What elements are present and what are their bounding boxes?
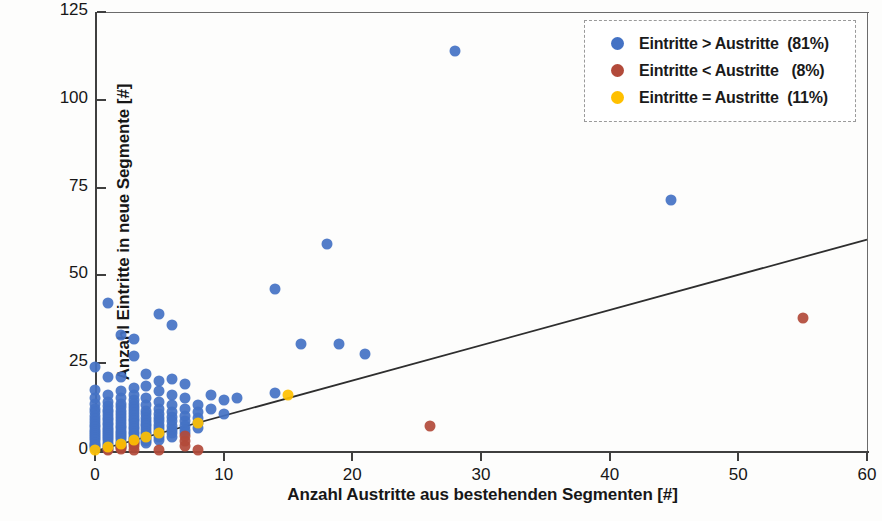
data-point <box>295 338 306 349</box>
legend-item-more_in[interactable]: Eintritte > Austritte (81%) <box>595 30 845 57</box>
data-point <box>192 417 203 428</box>
data-point <box>666 194 677 205</box>
data-point <box>141 381 152 392</box>
data-point <box>205 403 216 414</box>
data-point <box>167 319 178 330</box>
legend-item-label: Eintritte < Austritte (8%) <box>639 62 824 80</box>
trend-line-path <box>95 240 867 451</box>
y-tick-label-125: 125 <box>60 0 88 20</box>
x-tick-label-10: 10 <box>214 465 233 485</box>
data-point <box>167 431 178 442</box>
y-tick-label-25: 25 <box>69 351 88 371</box>
data-point <box>154 375 165 386</box>
y-tick-label-100: 100 <box>60 88 88 108</box>
x-axis-title: Anzahl Austritte aus bestehenden Segment… <box>95 485 870 505</box>
data-point <box>321 238 332 249</box>
x-tick-40: 40 <box>609 451 611 461</box>
chart-legend: Eintritte > Austritte (81%)Eintritte < A… <box>584 20 856 122</box>
data-point <box>450 45 461 56</box>
legend-swatch-icon <box>611 37 624 50</box>
data-point <box>154 444 165 455</box>
legend-item-more_out[interactable]: Eintritte < Austritte (8%) <box>595 57 845 84</box>
data-point <box>154 309 165 320</box>
data-point <box>167 389 178 400</box>
x-tick-label-40: 40 <box>600 465 619 485</box>
data-point <box>115 438 126 449</box>
data-point <box>270 284 281 295</box>
x-tick-60: 60 <box>866 451 868 461</box>
data-point <box>797 312 808 323</box>
data-point <box>205 389 216 400</box>
legend-item-equal[interactable]: Eintritte = Austritte (11%) <box>595 84 845 111</box>
data-point <box>141 368 152 379</box>
data-point <box>180 379 191 390</box>
y-tick-75: 75 <box>97 187 106 189</box>
data-point <box>141 431 152 442</box>
legend-swatch-icon <box>611 64 624 77</box>
y-tick-100: 100 <box>97 99 106 101</box>
x-axis-line <box>95 451 869 453</box>
x-tick-label-30: 30 <box>472 465 491 485</box>
data-point <box>128 333 139 344</box>
x-tick-label-0: 0 <box>90 465 99 485</box>
data-point <box>115 372 126 383</box>
data-point <box>102 298 113 309</box>
x-tick-20: 20 <box>351 451 353 461</box>
data-point <box>218 409 229 420</box>
data-point <box>154 386 165 397</box>
y-tick-125: 125 <box>97 11 106 13</box>
data-point <box>102 441 113 452</box>
data-point <box>180 431 191 442</box>
data-point <box>192 444 203 455</box>
y-tick-label-50: 50 <box>69 263 88 283</box>
legend-swatch-icon <box>611 91 624 104</box>
data-point <box>115 330 126 341</box>
data-point <box>167 374 178 385</box>
data-point <box>283 389 294 400</box>
data-point <box>90 444 101 455</box>
x-tick-30: 30 <box>480 451 482 461</box>
data-point <box>231 393 242 404</box>
x-tick-label-20: 20 <box>343 465 362 485</box>
x-tick-10: 10 <box>223 451 225 461</box>
data-point <box>270 388 281 399</box>
scatter-chart: Anzahl Eintritte in neue Segmente [#] An… <box>0 0 882 521</box>
data-point <box>334 338 345 349</box>
legend-item-label: Eintritte > Austritte (81%) <box>639 35 829 53</box>
data-point <box>218 395 229 406</box>
x-tick-label-50: 50 <box>729 465 748 485</box>
plot-frame-top <box>95 12 869 13</box>
data-point <box>128 435 139 446</box>
plot-frame-right <box>867 12 868 453</box>
legend-item-label: Eintritte = Austritte (11%) <box>639 89 828 107</box>
data-point <box>424 421 435 432</box>
y-tick-50: 50 <box>97 274 106 276</box>
data-point <box>154 428 165 439</box>
y-tick-label-0: 0 <box>79 439 88 459</box>
x-tick-50: 50 <box>737 451 739 461</box>
data-point <box>180 393 191 404</box>
x-tick-label-60: 60 <box>858 465 877 485</box>
data-point <box>90 361 101 372</box>
data-point <box>102 372 113 383</box>
data-point <box>128 351 139 362</box>
y-tick-label-75: 75 <box>69 176 88 196</box>
data-point <box>360 349 371 360</box>
